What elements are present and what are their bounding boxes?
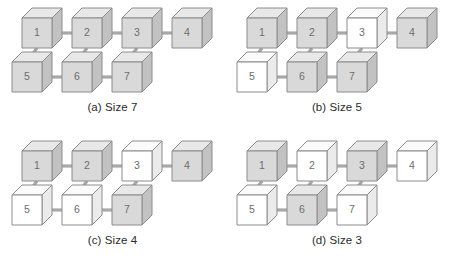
cube-label-1: 1	[259, 159, 265, 171]
cube-node-6[interactable]: 6	[62, 185, 102, 225]
cube-label-6: 6	[299, 70, 305, 82]
cube-label-3: 3	[359, 26, 365, 38]
panel-b-caption: (b) Size 5	[225, 101, 449, 113]
panel-b-diagram: 4321765	[225, 0, 449, 105]
cube-node-2[interactable]: 2	[72, 8, 112, 48]
cube-label-4: 4	[409, 26, 415, 38]
cube-node-6[interactable]: 6	[62, 52, 102, 92]
cube-node-6[interactable]: 6	[287, 52, 327, 92]
cube-node-5[interactable]: 5	[12, 185, 52, 225]
cube-label-6: 6	[74, 203, 80, 215]
cube-node-5[interactable]: 5	[12, 52, 52, 92]
cube-label-1: 1	[259, 26, 265, 38]
cube-node-3[interactable]: 3	[122, 141, 162, 181]
cube-node-7[interactable]: 7	[337, 185, 377, 225]
cube-label-3: 3	[134, 159, 140, 171]
cube-node-5[interactable]: 5	[237, 185, 277, 225]
cube-label-4: 4	[409, 159, 415, 171]
cube-label-4: 4	[184, 159, 190, 171]
cube-label-5: 5	[249, 203, 255, 215]
cube-label-1: 1	[34, 26, 40, 38]
cube-label-7: 7	[124, 70, 130, 82]
panel-c: 4321765 (c) Size 4	[0, 133, 225, 266]
cube-node-1[interactable]: 1	[22, 141, 62, 181]
cube-node-1[interactable]: 1	[22, 8, 62, 48]
panel-d-diagram: 4321765	[225, 133, 449, 238]
cube-node-1[interactable]: 1	[247, 8, 287, 48]
cube-node-3[interactable]: 3	[347, 8, 387, 48]
cube-node-3[interactable]: 3	[122, 8, 162, 48]
cube-node-7[interactable]: 7	[112, 52, 152, 92]
cube-node-4[interactable]: 4	[172, 8, 212, 48]
panel-b: 4321765 (b) Size 5	[225, 0, 449, 133]
cube-label-7: 7	[124, 203, 130, 215]
cube-label-1: 1	[34, 159, 40, 171]
cube-node-4[interactable]: 4	[397, 141, 437, 181]
cube-node-2[interactable]: 2	[72, 141, 112, 181]
cube-node-7[interactable]: 7	[112, 185, 152, 225]
cube-node-1[interactable]: 1	[247, 141, 287, 181]
cube-label-7: 7	[349, 203, 355, 215]
cube-label-5: 5	[24, 70, 30, 82]
cube-label-4: 4	[184, 26, 190, 38]
cube-label-5: 5	[249, 70, 255, 82]
cube-node-2[interactable]: 2	[297, 8, 337, 48]
cube-node-5[interactable]: 5	[237, 52, 277, 92]
panel-a-caption: (a) Size 7	[0, 101, 225, 113]
panel-a: 4321765 (a) Size 7	[0, 0, 225, 133]
panel-c-diagram: 4321765	[0, 133, 225, 238]
cube-network-figure: 4321765 (a) Size 7 4321765 (b) Size 5 43…	[0, 0, 449, 266]
cube-label-2: 2	[84, 26, 90, 38]
panel-d-caption: (d) Size 3	[225, 234, 449, 246]
panel-c-caption: (c) Size 4	[0, 234, 225, 246]
panel-d: 4321765 (d) Size 3	[225, 133, 449, 266]
cube-label-7: 7	[349, 70, 355, 82]
cube-node-2[interactable]: 2	[297, 141, 337, 181]
cube-label-6: 6	[299, 203, 305, 215]
cube-label-3: 3	[359, 159, 365, 171]
cube-node-6[interactable]: 6	[287, 185, 327, 225]
cube-node-4[interactable]: 4	[172, 141, 212, 181]
cube-node-7[interactable]: 7	[337, 52, 377, 92]
cube-node-4[interactable]: 4	[397, 8, 437, 48]
cube-label-2: 2	[309, 26, 315, 38]
cube-label-6: 6	[74, 70, 80, 82]
cube-node-3[interactable]: 3	[347, 141, 387, 181]
cube-label-2: 2	[309, 159, 315, 171]
panel-a-diagram: 4321765	[0, 0, 225, 105]
cube-label-2: 2	[84, 159, 90, 171]
cube-label-5: 5	[24, 203, 30, 215]
cube-label-3: 3	[134, 26, 140, 38]
